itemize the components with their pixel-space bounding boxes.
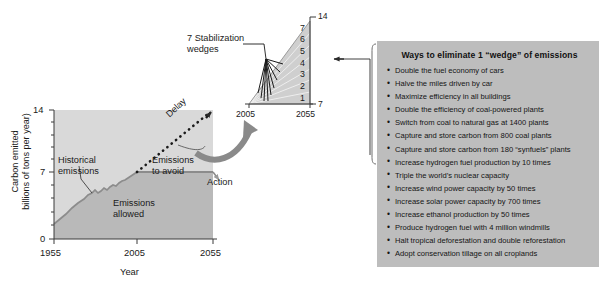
list-item[interactable]: •Halve the miles driven by car (386, 77, 593, 90)
list-item[interactable]: •Triple the world’s nuclear capacity (386, 169, 593, 182)
list-item-label: Triple the world’s nuclear capacity (395, 171, 509, 180)
list-item-label: Adopt conservation tillage on all cropla… (395, 249, 537, 258)
figure-canvas: Carbon emitted billions of tons per year… (0, 0, 606, 287)
wedge-number-6: 6 (300, 34, 305, 44)
annotation-avoid-line1: Emissions (152, 155, 194, 166)
bullet-icon: • (387, 155, 390, 168)
bullet-icon: • (387, 234, 390, 247)
wedge-bottom-value-7: 7 (318, 99, 323, 109)
wedge-x-tick-2005: 2005 (236, 109, 255, 119)
list-item[interactable]: •Double the efficiency of coal-powered p… (386, 103, 593, 116)
list-item[interactable]: •Switch from coal to natural gas at 1400… (386, 116, 593, 129)
panel-list: •Double the fuel economy of cars •Halve … (386, 64, 593, 260)
annotation-historical-line2: emissions (58, 166, 99, 177)
list-item-label: Produce hydrogen fuel with 4 million win… (395, 223, 550, 232)
y-tick-label-7: 7 (40, 166, 45, 177)
wedge-number-2: 2 (300, 81, 305, 91)
y-tick-label-14: 14 (33, 104, 43, 115)
list-item[interactable]: •Halt tropical deforestation and double … (386, 234, 593, 247)
list-item-label: Double the efficiency of coal-powered pl… (395, 105, 544, 114)
main-chart-plot (49, 110, 219, 244)
bullet-icon: • (387, 116, 390, 129)
annotation-historical-line1: Historical (58, 155, 99, 166)
x-tick-label-2055: 2055 (200, 247, 221, 258)
list-item[interactable]: •Increase ethanol production by 50 times (386, 208, 593, 221)
bullet-icon: • (387, 168, 390, 181)
bullet-icon: • (387, 129, 390, 142)
panel-title: Ways to eliminate 1 “wedge” of emissions (386, 50, 593, 60)
bullet-icon: • (387, 247, 390, 260)
list-item-label: Increase ethanol production by 50 times (395, 210, 530, 219)
annotation-emissions-allowed: Emissions allowed (113, 198, 155, 220)
wedge-top-value-14: 14 (318, 11, 328, 21)
list-item[interactable]: •Produce hydrogen fuel with 4 million wi… (386, 221, 593, 234)
wedge-inset (243, 17, 316, 108)
list-item-label: Capture and store carbon from 800 coal p… (395, 131, 552, 140)
wedge-callout-leader (243, 44, 266, 59)
wedge-x-tick-2055: 2055 (296, 109, 315, 119)
list-item-label: Halt tropical deforestation and double r… (395, 236, 565, 245)
wedge-number-3: 3 (300, 69, 305, 79)
annotation-allowed-line1: Emissions (113, 198, 155, 209)
bullet-icon: • (387, 208, 390, 221)
annotation-historical-emissions: Historical emissions (58, 155, 99, 177)
list-item-label: Maximize efficiency in all buildings (395, 92, 511, 101)
list-item[interactable]: •Capture and store carbon from 800 coal … (386, 129, 593, 142)
bullet-icon: • (387, 103, 390, 116)
list-item-label: Increase hydrogen fuel production by 10 … (395, 158, 551, 167)
list-item-label: Increase solar power capacity by 700 tim… (395, 197, 541, 206)
bullet-icon: • (387, 194, 390, 207)
x-tick-label-2005: 2005 (124, 247, 145, 258)
bullet-icon: • (387, 64, 390, 77)
bullet-icon: • (387, 181, 390, 194)
wedge-number-4: 4 (300, 58, 305, 68)
annotation-avoid-line2: to avoid (152, 166, 194, 177)
list-item-label: Halve the miles driven by car (395, 79, 493, 88)
wedge-number-1: 1 (300, 93, 305, 103)
x-ticks (54, 239, 213, 244)
wedge-callout-line1: 7 Stabilization (187, 33, 244, 44)
list-item[interactable]: •Maximize efficiency in all buildings (386, 90, 593, 103)
x-tick-label-1955: 1955 (40, 247, 61, 258)
bullet-icon: • (387, 77, 390, 90)
list-item-label: Capture and store carbon from 180 “synfu… (395, 145, 571, 154)
list-item[interactable]: •Increase hydrogen fuel production by 10… (386, 156, 593, 169)
list-item[interactable]: •Increase solar power capacity by 700 ti… (386, 195, 593, 208)
panel-to-wedge-connector (334, 44, 376, 164)
wedge-callout-label: 7 Stabilization wedges (187, 33, 244, 55)
y-tick-label-0: 0 (40, 233, 45, 244)
bullet-icon: • (387, 142, 390, 155)
bullet-icon: • (387, 221, 390, 234)
list-item[interactable]: •Double the fuel economy of cars (386, 64, 593, 77)
bullet-icon: • (387, 90, 390, 103)
annotation-action: Action (207, 177, 233, 188)
y-axis-label-line1: Carbon emitted (10, 106, 21, 216)
wedge-callout-line2: wedges (187, 44, 244, 55)
wedge-number-7: 7 (300, 23, 305, 33)
list-item[interactable]: •Adopt conservation tillage on all cropl… (386, 247, 593, 260)
list-item[interactable]: •Increase wind power capacity by 50 time… (386, 182, 593, 195)
annotation-allowed-line2: allowed (113, 209, 155, 220)
list-item-label: Switch from coal to natural gas at 1400 … (395, 118, 549, 127)
annotation-emissions-to-avoid: Emissions to avoid (152, 155, 194, 177)
y-axis-label: Carbon emitted billions of tons per year… (10, 106, 33, 216)
wedge-number-5: 5 (300, 46, 305, 56)
list-item-label: Increase wind power capacity by 50 times (395, 184, 536, 193)
ways-to-eliminate-panel: Ways to eliminate 1 “wedge” of emissions… (377, 41, 599, 267)
x-axis-label: Year (120, 266, 139, 277)
y-axis-label-line2: billions of tons per year) (21, 106, 32, 216)
list-item[interactable]: •Capture and store carbon from 180 “synf… (386, 143, 593, 156)
list-item-label: Double the fuel economy of cars (395, 66, 504, 75)
